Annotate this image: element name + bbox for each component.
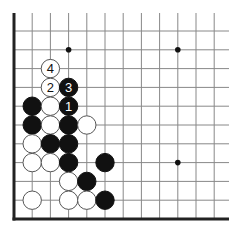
black-stone-icon: [96, 191, 114, 209]
move-number-label: 1: [65, 99, 72, 114]
black-stone-icon: [78, 172, 96, 190]
black-stone-icon: [41, 135, 59, 153]
move-number-label: 2: [47, 80, 54, 95]
white-stone: [78, 191, 96, 209]
white-stone: [59, 172, 77, 190]
black-stone: [23, 97, 41, 115]
white-stone-icon: [41, 153, 59, 171]
black-stone: [23, 116, 41, 134]
black-stone: [59, 116, 77, 134]
star-point-icon: [175, 160, 181, 166]
black-stone: [59, 135, 77, 153]
white-stone: [41, 153, 59, 171]
white-stone-icon: [23, 153, 41, 171]
black-stone-icon: [23, 97, 41, 115]
white-stone-icon: [41, 97, 59, 115]
move-number-label: 4: [47, 61, 54, 76]
stones: 4231: [23, 59, 114, 209]
white-stone-icon: [23, 191, 41, 209]
white-stone-icon: [78, 116, 96, 134]
white-stone: [41, 116, 59, 134]
black-stone-move-3: 3: [59, 78, 77, 96]
star-point-icon: [175, 47, 181, 53]
white-stone-move-2: 2: [41, 78, 59, 96]
black-stone-icon: [23, 116, 41, 134]
move-number-label: 3: [65, 80, 72, 95]
black-stone-icon: [96, 153, 114, 171]
black-stone-icon: [59, 116, 77, 134]
white-stone-icon: [59, 172, 77, 190]
white-stone-icon: [59, 191, 77, 209]
white-stone-icon: [23, 135, 41, 153]
black-stone: [41, 135, 59, 153]
white-stone: [78, 116, 96, 134]
black-stone-icon: [59, 135, 77, 153]
white-stone: [23, 153, 41, 171]
white-stone: [59, 191, 77, 209]
white-stone: [23, 135, 41, 153]
white-stone-move-4: 4: [41, 59, 59, 77]
black-stone: [96, 153, 114, 171]
black-stone-icon: [59, 153, 77, 171]
go-board: 4231: [0, 0, 239, 231]
grid-lines: [13, 13, 230, 221]
white-stone: [41, 97, 59, 115]
white-stone-icon: [78, 191, 96, 209]
white-stone-icon: [41, 116, 59, 134]
white-stone: [23, 191, 41, 209]
star-point-icon: [66, 47, 72, 53]
black-stone: [96, 191, 114, 209]
black-stone: [78, 172, 96, 190]
black-stone-move-1: 1: [59, 97, 77, 115]
black-stone: [59, 153, 77, 171]
